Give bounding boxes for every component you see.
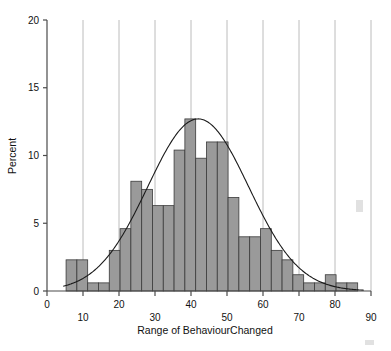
x-tick-label-50: 50 bbox=[221, 312, 233, 323]
x-axis-title: Range of BehaviourChanged bbox=[137, 324, 273, 336]
histogram-bar bbox=[325, 275, 336, 291]
histogram-bar bbox=[152, 206, 163, 291]
y-tick-label-15: 15 bbox=[28, 82, 40, 93]
x-tick-label-10: 10 bbox=[77, 312, 89, 323]
x-tick-label-60: 60 bbox=[257, 299, 269, 310]
histogram-bar bbox=[239, 237, 250, 291]
histogram-bar bbox=[120, 229, 131, 291]
histogram-bar bbox=[217, 142, 228, 291]
scan-artifact-bottom bbox=[365, 340, 374, 345]
scan-artifact-right bbox=[356, 200, 363, 212]
histogram-bar bbox=[66, 260, 77, 291]
histogram-bar bbox=[282, 260, 293, 291]
histogram-bar bbox=[260, 229, 271, 291]
histogram-bar bbox=[271, 250, 282, 291]
x-tick-label-40: 40 bbox=[185, 299, 197, 310]
chart-canvas: 05101520 0102030405060708090 Percent Ran… bbox=[0, 0, 391, 351]
histogram-bar bbox=[88, 283, 99, 291]
histogram-bar bbox=[228, 198, 239, 291]
histogram-bar bbox=[131, 181, 142, 291]
histogram-bar bbox=[314, 283, 325, 291]
y-axis-title: Percent bbox=[6, 138, 18, 174]
x-tick-label-70: 70 bbox=[293, 312, 305, 323]
x-tick-label-30: 30 bbox=[149, 312, 161, 323]
y-tick-label-5: 5 bbox=[33, 218, 39, 229]
histogram-bar bbox=[163, 206, 174, 291]
x-tick-label-0: 0 bbox=[44, 299, 50, 310]
y-tick-label-10: 10 bbox=[28, 150, 40, 161]
histogram-bar bbox=[304, 283, 315, 291]
x-tick-label-80: 80 bbox=[329, 299, 341, 310]
histogram-bar bbox=[185, 119, 196, 291]
histogram-bar bbox=[98, 283, 109, 291]
histogram-bar bbox=[77, 260, 88, 291]
histogram-bar bbox=[174, 150, 185, 291]
histogram-bar bbox=[109, 250, 120, 291]
x-tick-label-90: 90 bbox=[365, 312, 377, 323]
x-tick-label-20: 20 bbox=[113, 299, 125, 310]
y-tick-label-20: 20 bbox=[28, 15, 40, 26]
histogram-bar bbox=[206, 142, 217, 291]
histogram-bar bbox=[250, 237, 261, 291]
histogram-bar bbox=[196, 158, 207, 291]
y-tick-label-0: 0 bbox=[33, 286, 39, 297]
histogram-figure: 05101520 0102030405060708090 Percent Ran… bbox=[0, 0, 391, 351]
histogram-bar bbox=[142, 189, 153, 291]
histogram-bar bbox=[293, 275, 304, 291]
